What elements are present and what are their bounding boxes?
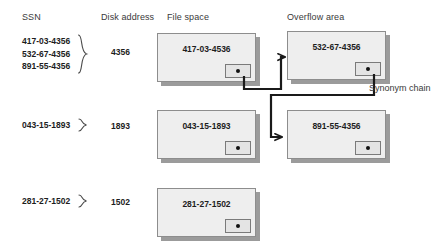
pointer-dot-icon — [366, 146, 370, 150]
column-header-overflow-area: Overflow area — [287, 12, 344, 22]
ssn-value: 417-03-4356 — [22, 35, 70, 48]
disk-address-value-2: 1893 — [111, 121, 130, 131]
ssn-value: 532-67-4356 — [22, 48, 70, 61]
column-header-ssn: SSN — [22, 12, 41, 22]
column-header-disk-address: Disk address — [101, 12, 154, 22]
record-box-file-space-1[interactable]: 417-03-4536 — [157, 33, 256, 82]
ssn-list-1: 417-03-4356 532-67-4356 891-55-4356 — [22, 35, 70, 73]
record-key: 532-67-4356 — [287, 42, 386, 52]
pointer-dot-icon — [366, 67, 370, 71]
hashing-overflow-diagram: SSN Disk address File space Overflow are… — [0, 0, 446, 247]
record-box-overflow-2[interactable]: 891-55-4356 — [287, 110, 386, 159]
record-key: 417-03-4536 — [157, 44, 256, 54]
brace-icon — [76, 118, 90, 132]
pointer-dot-icon — [236, 69, 240, 73]
ssn-group-2: 043-15-1893 — [22, 118, 90, 132]
record-box-overflow-1[interactable]: 532-67-4356 — [287, 31, 386, 80]
pointer-cell[interactable] — [355, 141, 381, 155]
synonym-chain-label: Synonym chain — [369, 83, 431, 93]
disk-address-value-3: 1502 — [111, 197, 130, 207]
pointer-dot-icon — [236, 224, 240, 228]
ssn-value: 043-15-1893 — [22, 119, 70, 132]
ssn-list-3: 281-27-1502 — [22, 195, 70, 208]
disk-address-value-1: 4356 — [111, 47, 130, 57]
pointer-cell[interactable] — [225, 141, 251, 155]
pointer-cell[interactable] — [355, 62, 381, 76]
ssn-group-3: 281-27-1502 — [22, 194, 90, 208]
record-box-file-space-3[interactable]: 281-27-1502 — [157, 188, 256, 237]
record-key: 281-27-1502 — [157, 199, 256, 209]
record-key: 043-15-1893 — [157, 121, 256, 131]
record-box-file-space-2[interactable]: 043-15-1893 — [157, 110, 256, 159]
ssn-value: 281-27-1502 — [22, 195, 70, 208]
column-header-file-space: File space — [167, 12, 209, 22]
ssn-list-2: 043-15-1893 — [22, 119, 70, 132]
ssn-group-1: 417-03-4356 532-67-4356 891-55-4356 — [22, 34, 90, 74]
record-key: 891-55-4356 — [287, 121, 386, 131]
brace-icon — [76, 194, 90, 208]
brace-icon — [76, 34, 90, 74]
pointer-cell[interactable] — [225, 219, 251, 233]
pointer-dot-icon — [236, 146, 240, 150]
pointer-cell[interactable] — [225, 64, 251, 78]
ssn-value: 891-55-4356 — [22, 60, 70, 73]
